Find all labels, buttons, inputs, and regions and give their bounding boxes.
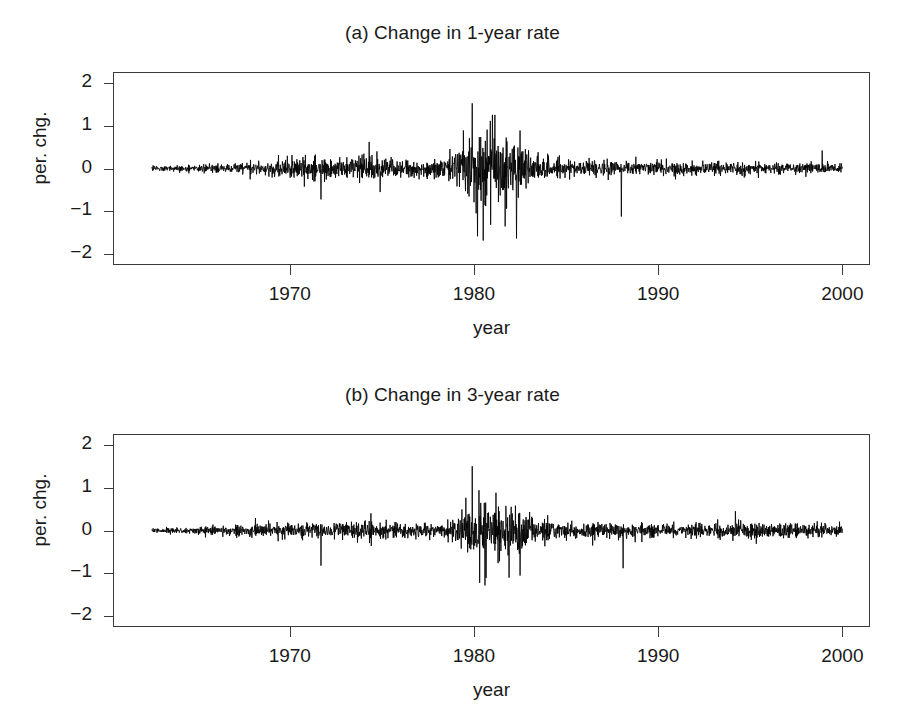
y-tick-mark bbox=[104, 616, 113, 617]
y-tick-label: 2 bbox=[52, 432, 92, 454]
panel-b-series-svg bbox=[113, 434, 870, 627]
x-tick-label: 1970 bbox=[245, 645, 335, 667]
y-tick-label: −1 bbox=[52, 560, 92, 582]
y-tick-mark bbox=[104, 211, 113, 212]
y-tick-label: 1 bbox=[52, 475, 92, 497]
panel-a-series-svg bbox=[113, 72, 870, 265]
x-tick-label: 2000 bbox=[797, 645, 887, 667]
x-tick-mark bbox=[658, 265, 659, 275]
y-tick-label: −2 bbox=[52, 241, 92, 263]
x-tick-mark bbox=[842, 265, 843, 275]
x-tick-label: 1980 bbox=[429, 645, 519, 667]
y-tick-label: 0 bbox=[52, 518, 92, 540]
y-tick-label: −1 bbox=[52, 198, 92, 220]
x-tick-mark bbox=[290, 627, 291, 637]
y-tick-mark bbox=[104, 169, 113, 170]
x-tick-mark bbox=[842, 627, 843, 637]
panel-change-1-year: (a) Change in 1-year rate per. chg. 210−… bbox=[0, 0, 905, 362]
x-tick-mark bbox=[474, 627, 475, 637]
x-tick-label: 2000 bbox=[797, 283, 887, 305]
panel-a-title: (a) Change in 1-year rate bbox=[0, 22, 905, 44]
y-tick-label: 2 bbox=[52, 70, 92, 92]
y-tick-label: 1 bbox=[52, 113, 92, 135]
y-tick-mark bbox=[104, 126, 113, 127]
panel-a-x-axis-label: year bbox=[113, 317, 870, 339]
y-tick-mark bbox=[104, 488, 113, 489]
y-tick-mark bbox=[104, 254, 113, 255]
figure-root: (a) Change in 1-year rate per. chg. 210−… bbox=[0, 0, 905, 724]
series-line-3-year bbox=[152, 466, 843, 585]
x-tick-label: 1990 bbox=[613, 283, 703, 305]
panel-a-y-axis-label: per. chg. bbox=[29, 68, 51, 228]
x-tick-label: 1980 bbox=[429, 283, 519, 305]
y-tick-mark bbox=[104, 573, 113, 574]
panel-b-title: (b) Change in 3-year rate bbox=[0, 384, 905, 406]
x-tick-mark bbox=[290, 265, 291, 275]
series-line-1-year bbox=[152, 103, 843, 240]
y-tick-label: 0 bbox=[52, 156, 92, 178]
x-tick-mark bbox=[474, 265, 475, 275]
y-tick-label: −2 bbox=[52, 603, 92, 625]
panel-change-3-year: (b) Change in 3-year rate per. chg. 210−… bbox=[0, 362, 905, 724]
x-tick-label: 1970 bbox=[245, 283, 335, 305]
x-tick-label: 1990 bbox=[613, 645, 703, 667]
panel-b-y-axis-label: per. chg. bbox=[29, 430, 51, 590]
y-tick-mark bbox=[104, 445, 113, 446]
x-tick-mark bbox=[658, 627, 659, 637]
panel-b-x-axis-label: year bbox=[113, 679, 870, 701]
y-tick-mark bbox=[104, 83, 113, 84]
y-tick-mark bbox=[104, 531, 113, 532]
